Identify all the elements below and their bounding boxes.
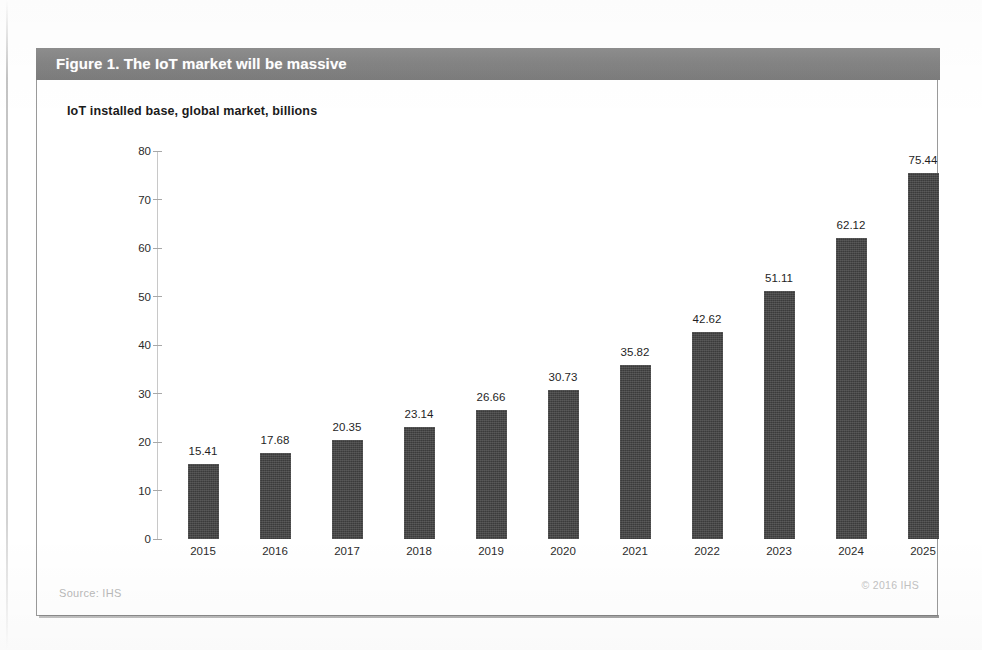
x-axis-tick-label: 2020 — [527, 545, 599, 557]
y-axis-tick-mark — [153, 442, 162, 443]
bar-value-label: 20.35 — [311, 421, 383, 434]
bar — [188, 464, 219, 539]
bar-group: 35.82 — [599, 141, 671, 539]
card-bottom-shadow — [39, 615, 939, 618]
bar-group: 42.62 — [671, 141, 743, 539]
y-axis-tick: 10 — [67, 485, 177, 497]
bar-value-label: 23.14 — [383, 408, 455, 421]
bar — [260, 453, 291, 539]
x-axis-tick-label: 2019 — [455, 545, 527, 557]
bar-value-label: 75.44 — [887, 154, 959, 167]
x-axis-tick-label: 2025 — [887, 545, 959, 557]
y-axis-tick: 70 — [67, 194, 177, 206]
chart-plot-area: 01020304050607080 15.4117.6820.3523.1426… — [67, 141, 915, 561]
y-axis-tick-mark — [153, 199, 162, 200]
bar — [836, 238, 867, 539]
figure-card: Figure 1. The IoT market will be massive… — [36, 48, 938, 616]
bar-group: 75.44 — [887, 141, 959, 539]
y-axis-tick-label: 30 — [138, 388, 151, 400]
y-axis-tick-label: 0 — [145, 533, 151, 545]
y-axis-tick-mark — [153, 393, 162, 394]
y-axis-tick: 80 — [67, 145, 177, 157]
bar — [332, 440, 363, 539]
y-axis-tick-label: 70 — [138, 194, 151, 206]
figure-footer: Source: IHS © 2016 IHS — [37, 587, 937, 605]
y-axis-tick: 50 — [67, 291, 177, 303]
y-axis-tick-mark — [153, 151, 162, 152]
bar-value-label: 17.68 — [239, 434, 311, 447]
x-axis-tick-label: 2021 — [599, 545, 671, 557]
x-axis-tick-label: 2022 — [671, 545, 743, 557]
x-axis-tick-label: 2016 — [239, 545, 311, 557]
y-axis-tick-label: 50 — [138, 291, 151, 303]
y-axis-tick: 20 — [67, 436, 177, 448]
bar — [476, 410, 507, 539]
y-axis-tick: 0 — [67, 533, 177, 545]
y-axis-tick: 60 — [67, 242, 177, 254]
bar — [548, 390, 579, 539]
bar-group: 23.14 — [383, 141, 455, 539]
y-axis-tick-label: 40 — [138, 339, 151, 351]
bar-group: 30.73 — [527, 141, 599, 539]
bar-value-label: 35.82 — [599, 346, 671, 359]
bar-value-label: 62.12 — [815, 219, 887, 232]
x-axis-tick-label: 2018 — [383, 545, 455, 557]
bar-group: 15.41 — [167, 141, 239, 539]
x-axis-tick-label: 2015 — [167, 545, 239, 557]
y-axis-tick-mark — [153, 345, 162, 346]
bar — [404, 427, 435, 539]
source-note: Source: IHS — [59, 587, 122, 599]
y-axis-tick: 40 — [67, 339, 177, 351]
scan-artifact-left-edge — [6, 0, 8, 650]
bar-value-label: 30.73 — [527, 371, 599, 384]
x-axis-tick-label: 2017 — [311, 545, 383, 557]
bar — [764, 291, 795, 539]
y-axis-tick-label: 60 — [138, 242, 151, 254]
y-axis-tick-label: 80 — [138, 145, 151, 157]
bars-layer: 15.4117.6820.3523.1426.6630.7335.8242.62… — [163, 141, 915, 539]
y-axis-tick-label: 10 — [138, 485, 151, 497]
bar-value-label: 42.62 — [671, 313, 743, 326]
bar — [908, 173, 939, 539]
figure-title: Figure 1. The IoT market will be massive — [56, 55, 347, 72]
y-axis-tick-mark — [153, 490, 162, 491]
chart-subtitle: IoT installed base, global market, billi… — [67, 104, 317, 118]
bar-group: 51.11 — [743, 141, 815, 539]
y-axis-tick-mark — [153, 296, 162, 297]
bar-group: 62.12 — [815, 141, 887, 539]
bar-value-label: 15.41 — [167, 445, 239, 458]
y-axis-tick-label: 20 — [138, 436, 151, 448]
copyright-note: © 2016 IHS — [862, 579, 919, 591]
y-axis-tick-mark — [153, 539, 162, 540]
bar — [692, 332, 723, 539]
x-axis-labels: 2015201620172018201920202021202220232024… — [163, 545, 915, 565]
bar-group: 20.35 — [311, 141, 383, 539]
bar-value-label: 51.11 — [743, 272, 815, 285]
x-axis-tick-label: 2023 — [743, 545, 815, 557]
y-axis-tick: 30 — [67, 388, 177, 400]
y-axis-tick-mark — [153, 248, 162, 249]
bar-group: 17.68 — [239, 141, 311, 539]
figure-title-banner: Figure 1. The IoT market will be massive — [36, 48, 940, 80]
x-axis-tick-label: 2024 — [815, 545, 887, 557]
bar-value-label: 26.66 — [455, 391, 527, 404]
bar — [620, 365, 651, 539]
bar-group: 26.66 — [455, 141, 527, 539]
